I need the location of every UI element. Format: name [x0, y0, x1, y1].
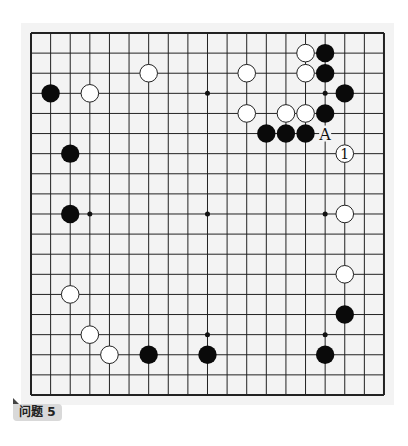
black-stone[interactable]: [61, 144, 79, 162]
star-point: [323, 91, 328, 96]
white-stone[interactable]: [238, 64, 256, 82]
black-stone[interactable]: [139, 346, 157, 364]
black-stone[interactable]: [61, 205, 79, 223]
white-stone[interactable]: [61, 286, 79, 304]
white-stone[interactable]: [81, 326, 99, 344]
star-point: [323, 332, 328, 337]
black-stone[interactable]: [198, 346, 216, 364]
black-stone[interactable]: [316, 104, 334, 122]
black-stone[interactable]: [316, 44, 334, 62]
black-stone[interactable]: [296, 124, 314, 142]
stone-number-label: 1: [340, 146, 349, 162]
white-stone[interactable]: [81, 85, 99, 103]
white-stone[interactable]: [297, 105, 315, 123]
black-stone[interactable]: [316, 64, 334, 82]
star-point: [205, 332, 210, 337]
black-stone[interactable]: [41, 84, 59, 102]
white-stone[interactable]: [297, 64, 315, 82]
star-point: [323, 211, 328, 216]
problem-label: 问题 5: [13, 404, 62, 421]
star-point: [205, 91, 210, 96]
go-board-grid: 1A: [21, 23, 394, 405]
white-stone[interactable]: [238, 105, 256, 123]
white-stone[interactable]: [277, 105, 295, 123]
black-stone[interactable]: [257, 124, 275, 142]
white-stone[interactable]: [297, 44, 315, 62]
black-stone[interactable]: [336, 305, 354, 323]
go-board: 1A: [21, 23, 394, 405]
star-point: [87, 211, 92, 216]
white-stone[interactable]: [101, 346, 119, 364]
letter-mark: A: [318, 125, 331, 144]
white-stone[interactable]: [140, 64, 158, 82]
star-point: [205, 211, 210, 216]
black-stone[interactable]: [316, 346, 334, 364]
white-stone[interactable]: [336, 205, 354, 223]
black-stone[interactable]: [336, 84, 354, 102]
black-stone[interactable]: [277, 124, 295, 142]
white-stone[interactable]: [336, 266, 354, 284]
